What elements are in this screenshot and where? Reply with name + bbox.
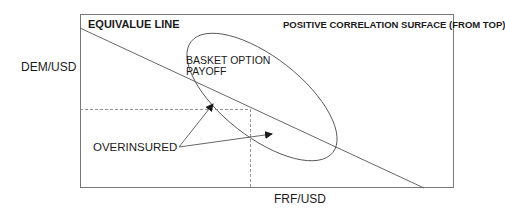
- x-axis-label: FRF/USD: [274, 193, 326, 205]
- correlation-surface-title: POSITIVE CORRELATION SURFACE (FROM TOP): [283, 20, 505, 30]
- basket-option-payoff-label: BASKET OPTION PAYOFF: [186, 55, 270, 77]
- plot-frame: [81, 15, 454, 188]
- basket-option-payoff-ellipse: [166, 10, 357, 184]
- overinsured-arrow-lower: [179, 134, 272, 147]
- equivalue-line: [80, 28, 424, 188]
- equivalue-line-title: EQUIVALUE LINE: [88, 19, 179, 30]
- payoff-label-line2: PAYOFF: [186, 66, 270, 77]
- overinsured-arrow-upper: [179, 104, 213, 147]
- overinsured-label: OVERINSURED: [93, 142, 177, 154]
- y-axis-label: DEM/USD: [21, 61, 76, 73]
